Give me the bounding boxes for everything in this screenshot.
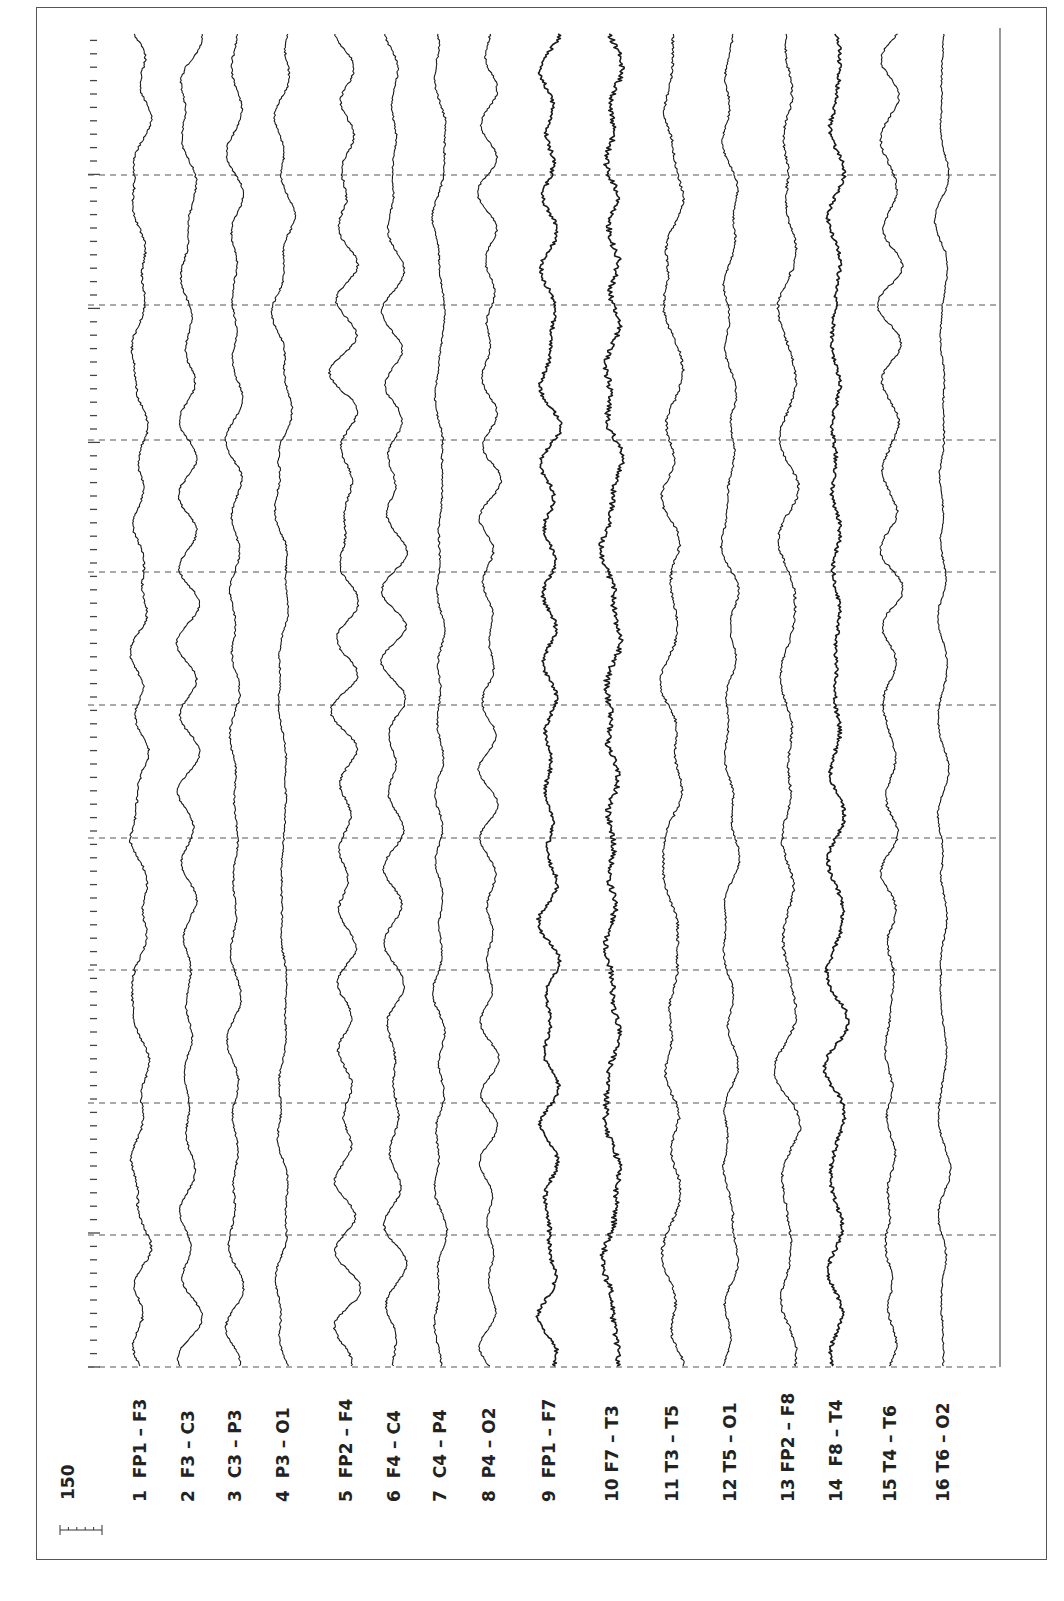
channel-label-16: 16 T6 – O2 bbox=[933, 1402, 953, 1502]
channel-label-11: 11 T3 – T5 bbox=[662, 1405, 682, 1502]
channel-label-3: 3 C3 – P3 bbox=[225, 1409, 245, 1502]
channel-label-4: 4 P3 – O1 bbox=[273, 1407, 293, 1502]
channel-label-6: 6 F4 – C4 bbox=[384, 1410, 404, 1502]
eeg-trace-ch13 bbox=[774, 34, 801, 1366]
eeg-trace-ch4 bbox=[271, 34, 296, 1366]
channel-label-7: 7 C4 – P4 bbox=[430, 1409, 450, 1502]
eeg-plot bbox=[0, 0, 1064, 1601]
channel-label-14: 14 F8 – T4 bbox=[826, 1399, 846, 1502]
channel-label-2: 2 F3 – C3 bbox=[178, 1410, 198, 1502]
time-gridlines bbox=[88, 175, 1000, 1367]
channel-label-12: 12 T5 – O1 bbox=[720, 1402, 740, 1502]
eeg-trace-ch1 bbox=[130, 34, 153, 1366]
channel-label-1: 1 FP1 – F3 bbox=[130, 1399, 150, 1502]
channel-label-8: 8 P4 – O2 bbox=[479, 1407, 499, 1502]
eeg-traces bbox=[130, 34, 952, 1366]
eeg-trace-ch2 bbox=[176, 34, 203, 1366]
scale-bar-label: 150 bbox=[58, 1465, 78, 1501]
eeg-trace-ch6 bbox=[381, 34, 408, 1366]
time-axis-ticks bbox=[88, 40, 100, 1367]
channel-label-9: 9 FP1 – F7 bbox=[539, 1399, 559, 1502]
eeg-trace-ch12 bbox=[720, 34, 740, 1366]
scale-bar-icon bbox=[60, 1525, 102, 1535]
eeg-trace-ch5 bbox=[329, 34, 361, 1366]
eeg-trace-ch8 bbox=[478, 34, 502, 1366]
eeg-trace-ch9 bbox=[536, 34, 561, 1366]
eeg-trace-ch16 bbox=[934, 34, 951, 1366]
eeg-trace-ch3 bbox=[225, 34, 244, 1366]
eeg-trace-ch14 bbox=[823, 34, 849, 1366]
channel-label-15: 15 T4 – T6 bbox=[880, 1405, 900, 1502]
eeg-trace-ch7 bbox=[432, 34, 448, 1366]
eeg-trace-ch11 bbox=[660, 34, 685, 1366]
eeg-trace-ch15 bbox=[877, 34, 903, 1366]
eeg-trace-ch10 bbox=[599, 34, 624, 1366]
channel-label-5: 5 FP2 – F4 bbox=[336, 1399, 356, 1502]
channel-label-13: 13 FP2 – F8 bbox=[778, 1393, 798, 1502]
channel-label-10: 10 F7 – T3 bbox=[602, 1405, 622, 1502]
